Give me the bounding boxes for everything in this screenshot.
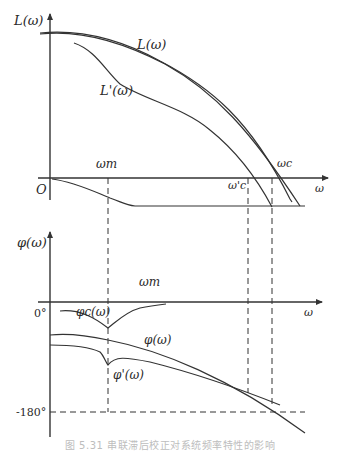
guide-lines bbox=[50, 178, 305, 412]
curve-phi bbox=[50, 334, 305, 433]
label-phi-prime: φ'(ω) bbox=[113, 368, 144, 382]
curve-phi-prime bbox=[50, 345, 280, 405]
curve-L bbox=[40, 32, 292, 202]
curve-Lc bbox=[52, 179, 305, 206]
omega-c-prime-label: ω'c bbox=[228, 179, 246, 192]
magnitude-plot: L(ω) L(ω) L'(ω) O ωm ωc ω'c ω bbox=[13, 13, 328, 207]
magnitude-y-label: L(ω) bbox=[13, 13, 43, 28]
origin-label: O bbox=[36, 182, 47, 197]
phase-x-label: ω bbox=[304, 306, 313, 319]
label-L-prime: L'(ω) bbox=[99, 83, 133, 98]
magnitude-x-label: ω bbox=[315, 182, 324, 195]
label-phi: φ(ω) bbox=[144, 333, 172, 347]
omega-m-label-top: ωm bbox=[96, 157, 117, 171]
zero-deg-label: 0° bbox=[34, 307, 47, 320]
omega-c-label: ωc bbox=[277, 157, 292, 170]
phase-y-label: φ(ω) bbox=[17, 235, 47, 250]
figure-caption: 图 5.31 串联滞后校正对系统频率特性的影响 bbox=[0, 437, 340, 452]
label-phi-c: φc(ω) bbox=[76, 305, 111, 319]
minus180-label: -180° bbox=[16, 406, 46, 419]
bode-diagram: L(ω) L(ω) L'(ω) O ωm ωc ω'c ω φ(ω) 0° -1… bbox=[0, 0, 340, 454]
label-L: L(ω) bbox=[136, 37, 166, 52]
phase-plot: φ(ω) 0° -180° ωm φc(ω) φ(ω) φ'(ω) ω bbox=[16, 232, 322, 437]
omega-m-label-phase: ωm bbox=[139, 275, 160, 289]
